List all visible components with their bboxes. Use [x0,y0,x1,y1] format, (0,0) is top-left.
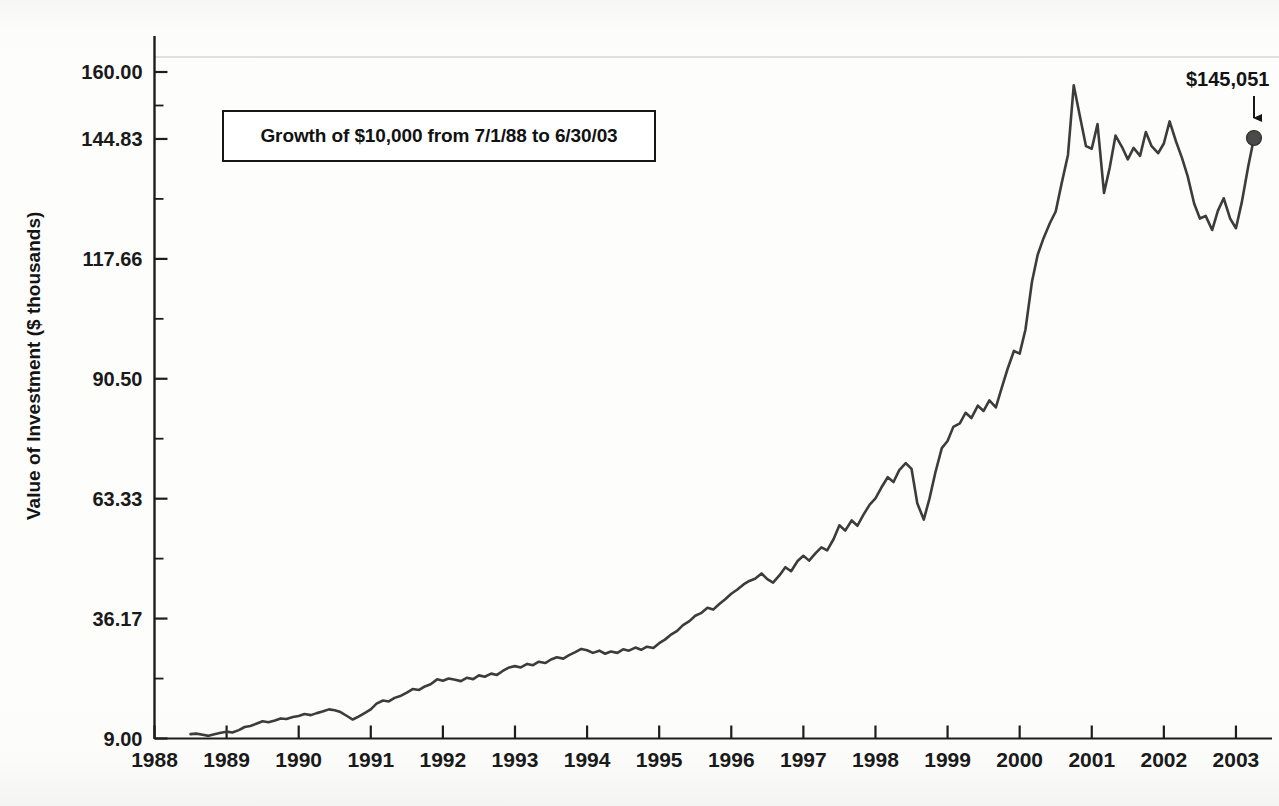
end-point-dot-marker [1246,130,1261,145]
x-tick-label: 2001 [1068,748,1115,771]
y-tick-label: 117.66 [82,248,142,270]
x-tick-label: 2000 [996,748,1043,771]
x-tick-label: 1996 [708,748,755,771]
x-tick-label: 1991 [347,748,394,771]
x-tick-label: 1990 [275,748,322,771]
y-tick-label: 90.50 [92,368,142,390]
y-tick-label: 144.83 [81,128,142,150]
x-tick-label: 1997 [780,748,827,771]
y-tick-label: 36.17 [92,608,142,630]
y-tick-label: 63.33 [92,488,142,510]
x-tick-label: 1992 [420,748,467,771]
end-point-annotation-group [1246,96,1261,146]
x-tick-label: 2002 [1140,748,1187,771]
chart-title-box: Growth of $10,000 from 7/1/88 to 6/30/03 [222,110,656,162]
x-tick-label: 1995 [636,748,683,771]
investment-value-line [191,85,1254,736]
x-tick-label: 1994 [564,748,611,771]
x-tick-label: 1999 [924,748,971,771]
x-tick-label: 1998 [852,748,899,771]
end-value-label: $145,051 [1186,68,1269,91]
x-axis-ticks: 1988198919901991199219931994199519961997… [131,726,1259,771]
y-axis-minor-ticks [155,106,164,679]
x-tick-label: 1993 [492,748,539,771]
x-tick-label: 2003 [1213,748,1260,771]
y-axis-title: Value of Investment ($ thousands) [23,212,44,520]
chart-title-text: Growth of $10,000 from 7/1/88 to 6/30/03 [260,125,617,147]
y-tick-label: 160.00 [81,61,142,83]
x-tick-label: 1988 [131,748,178,771]
x-tick-label: 1989 [203,748,250,771]
chart-page: 160.00144.83117.6690.5063.3336.179.00 19… [0,0,1279,806]
y-tick-label: 9.00 [104,728,143,750]
